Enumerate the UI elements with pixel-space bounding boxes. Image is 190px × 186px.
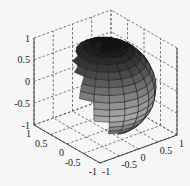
sphere-face bbox=[94, 87, 109, 96]
x-tick-label: -0.5 bbox=[121, 159, 137, 170]
sphere-surface-plot: -1-0.500.51-1-0.500.51-1-0.500.51 bbox=[0, 0, 190, 186]
y-tick-label: -1 bbox=[89, 166, 97, 177]
x-tick-label: 0 bbox=[141, 152, 146, 163]
z-tick-label: -0.5 bbox=[14, 98, 30, 109]
y-tick-label: 0 bbox=[59, 147, 64, 158]
sphere-face bbox=[94, 102, 110, 110]
sphere-face bbox=[108, 72, 121, 80]
sphere-face bbox=[97, 65, 108, 73]
z-tick-label: 1 bbox=[25, 33, 30, 44]
sphere-face bbox=[109, 79, 123, 88]
z-tick-label: 0.5 bbox=[18, 54, 31, 65]
sphere-face bbox=[96, 72, 109, 80]
z-tick-label: 0 bbox=[25, 76, 30, 87]
x-tick-label: 1 bbox=[179, 138, 184, 149]
sphere-face bbox=[94, 94, 110, 103]
sphere-face bbox=[109, 87, 124, 96]
y-tick-label: 0.5 bbox=[35, 138, 48, 149]
x-tick-label: -1 bbox=[102, 166, 110, 177]
sphere-surface bbox=[72, 37, 156, 135]
y-tick-label: 1 bbox=[26, 128, 31, 139]
sphere-face bbox=[99, 58, 108, 65]
sphere-face bbox=[110, 102, 125, 110]
x-tick-label: 0.5 bbox=[160, 145, 173, 156]
sphere-face bbox=[109, 94, 124, 103]
y-tick-label: -0.5 bbox=[65, 157, 81, 168]
sphere-face bbox=[95, 79, 109, 88]
